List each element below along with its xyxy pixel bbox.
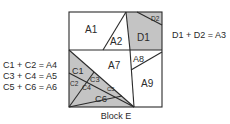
- caption-text: Block E: [101, 111, 132, 121]
- equation: D1 + D2 = A3: [172, 30, 226, 41]
- label-c2: C2: [70, 80, 79, 87]
- label-c6: C6: [95, 93, 107, 104]
- label-a7: A7: [108, 60, 121, 71]
- equation: C1 + C2 = A4: [3, 60, 57, 71]
- label-d1: D1: [137, 32, 150, 43]
- label-c3: C3: [90, 75, 100, 84]
- equations-left: C1 + C2 = A4 C3 + C4 = A5 C5 + C6 = A6: [3, 60, 57, 93]
- label-a9: A9: [141, 78, 154, 89]
- equations-right: D1 + D2 = A3: [172, 30, 226, 41]
- diagram-caption: Block E: [0, 111, 230, 121]
- equation: C3 + C4 = A5: [3, 71, 57, 82]
- label-a1: A1: [85, 24, 98, 35]
- equation: C5 + C6 = A6: [3, 82, 57, 93]
- label-c5: C5: [107, 86, 115, 92]
- label-d2: D2: [151, 15, 160, 22]
- label-c4: C4: [82, 84, 91, 91]
- label-c1: C1: [72, 66, 84, 76]
- label-a2: A2: [110, 36, 123, 47]
- label-a8: A8: [133, 54, 144, 64]
